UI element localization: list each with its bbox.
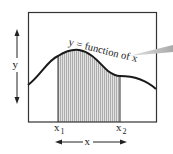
x1-label: x1 xyxy=(54,121,65,136)
x-extent-arrow xyxy=(55,140,127,145)
y-axis-label: y xyxy=(13,58,19,70)
area-under-curve-diagram: y = function of x y x1 x2 x xyxy=(0,0,173,154)
x2-label: x2 xyxy=(116,121,127,136)
x-axis-label: x xyxy=(85,135,91,147)
shaded-area xyxy=(58,50,120,122)
